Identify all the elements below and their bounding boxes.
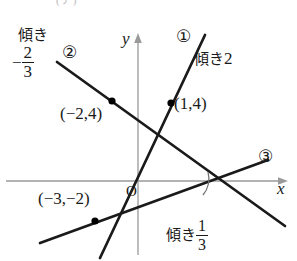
slope-label-line3: 傾き13 — [166, 218, 208, 253]
point-label-m2-4: (−2,4) — [60, 105, 102, 122]
slope-label-line2: 傾き −23 — [12, 28, 48, 82]
point-m3-m2-dot — [91, 217, 98, 224]
slope-numerator-line3: 1 — [196, 218, 208, 236]
cropped-header-text: (ア) — [56, 0, 77, 6]
x-axis-label: x — [277, 180, 285, 197]
line-3-marker: ③ — [258, 148, 273, 165]
line-1-marker: ① — [176, 28, 191, 45]
slope-word-line2: 傾き — [18, 28, 48, 43]
slope-value-line1: 2 — [224, 49, 233, 68]
y-axis-arrow — [134, 33, 142, 43]
slope-numerator-line2: 2 — [22, 44, 35, 63]
slope-word-line1: 傾き — [194, 50, 224, 68]
axes-group — [6, 33, 288, 255]
slope-denominator-line2: 3 — [22, 63, 35, 82]
line-2 — [57, 62, 285, 226]
line-2-marker: ② — [62, 44, 77, 61]
point-m2-4-dot — [108, 97, 115, 104]
point-label-1-4: (1,4) — [174, 95, 207, 112]
point-label-m3-m2: (−3,−2) — [38, 190, 90, 207]
slope-label-line1: 傾き2 — [194, 50, 233, 67]
slope-word-line3: 傾き — [166, 228, 196, 243]
y-axis-label: y — [122, 30, 130, 47]
slope-sign-line2: − — [12, 54, 22, 71]
origin-label: O — [126, 184, 137, 199]
slope-denominator-line3: 3 — [196, 236, 208, 254]
